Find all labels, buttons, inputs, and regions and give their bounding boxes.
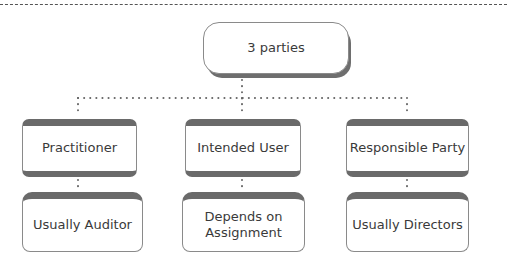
- node-practitioner: Practitioner: [22, 119, 137, 177]
- node-responsible-party: Responsible Party: [346, 119, 469, 177]
- node-depends-on-assignment-label: Depends on Assignment: [199, 209, 289, 242]
- node-practitioner-label: Practitioner: [42, 140, 117, 156]
- node-usually-auditor: Usually Auditor: [22, 192, 143, 252]
- root-node-label: 3 parties: [247, 40, 304, 56]
- node-responsible-party-label: Responsible Party: [350, 140, 465, 156]
- node-intended-user-label: Intended User: [197, 140, 289, 156]
- node-usually-directors: Usually Directors: [346, 192, 469, 252]
- node-intended-user: Intended User: [185, 119, 301, 177]
- node-usually-auditor-label: Usually Auditor: [33, 217, 132, 233]
- node-usually-directors-label: Usually Directors: [352, 217, 463, 233]
- node-depends-on-assignment: Depends on Assignment: [182, 192, 305, 252]
- root-node: 3 parties: [203, 22, 349, 74]
